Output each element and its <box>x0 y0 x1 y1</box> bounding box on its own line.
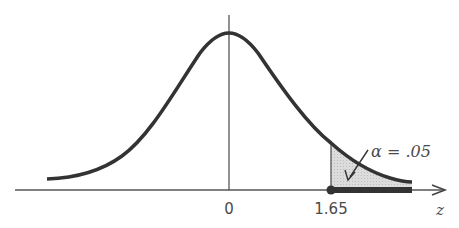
tick-label-zero: 0 <box>224 200 234 218</box>
normal-distribution-chart: α = .05 0 1.65 z <box>0 0 459 228</box>
axis-label-z: z <box>435 201 444 219</box>
critical-value-dot <box>327 186 336 195</box>
alpha-label: α = .05 <box>371 142 431 161</box>
tick-label-critical: 1.65 <box>314 200 347 218</box>
